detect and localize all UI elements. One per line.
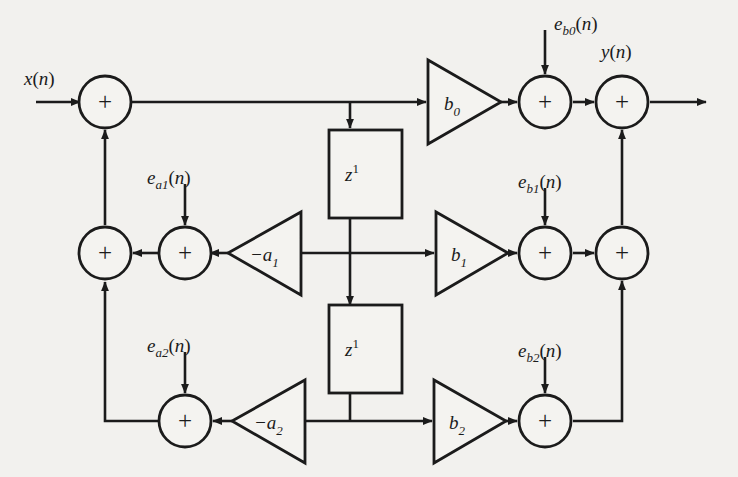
- adder-symbol-output: +: [615, 88, 629, 115]
- delay-block-z1-top: [329, 130, 402, 218]
- label-noise-eb1: eb1(n): [518, 171, 562, 196]
- adder-symbol-b1: +: [538, 239, 552, 266]
- adder-symbol-b0: +: [538, 88, 552, 115]
- label-noise-eb2: eb2(n): [518, 340, 562, 365]
- delay-block-z1-bottom: [329, 305, 402, 393]
- gain-triangle-b2: [434, 380, 506, 463]
- delay-blocks: z1 z1: [329, 130, 402, 393]
- wire-sumb2-up: [573, 281, 622, 421]
- adder-symbol-b1-right: +: [615, 239, 629, 266]
- signal-labels: x(n) y(n) eb0(n) eb1(n) eb2(n) ea1(n) ea…: [23, 13, 632, 365]
- gain-triangles: b0 b1 b2 −a1 −a2: [228, 60, 508, 463]
- adder-symbol-input: +: [98, 88, 112, 115]
- gain-triangle-b0: [428, 60, 501, 144]
- label-noise-eb0: eb0(n): [554, 13, 598, 38]
- gain-triangle-b1: [436, 212, 508, 295]
- adder-symbol-a1-noise: +: [178, 239, 192, 266]
- adder-symbol-a1-left: +: [98, 239, 112, 266]
- label-input-x: x(n): [23, 68, 55, 90]
- label-output-y: y(n): [599, 41, 632, 63]
- adder-symbol-b2: +: [538, 407, 552, 434]
- adder-symbol-a2-noise: +: [178, 407, 192, 434]
- signal-flow-diagram: z1 z1 b0 b1 b2 −a1 −a2 + + + + + +: [0, 0, 738, 477]
